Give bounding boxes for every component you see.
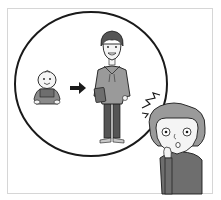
thought-circle xyxy=(15,12,167,156)
illustration xyxy=(0,0,221,200)
arrow-right-icon xyxy=(70,82,86,94)
elderly-woman-figure xyxy=(149,103,205,194)
young-man-figure xyxy=(94,31,130,143)
baby-figure xyxy=(34,71,60,105)
